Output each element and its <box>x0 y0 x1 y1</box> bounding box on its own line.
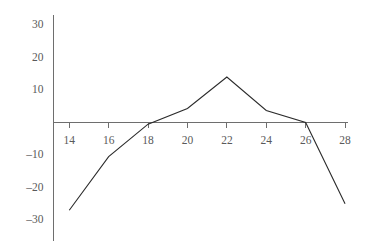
x-tick-label-14: 14 <box>64 135 76 147</box>
x-tick-label-26: 26 <box>300 135 312 147</box>
y-tick-label-10: 10 <box>32 84 44 96</box>
x-tick-marks <box>69 123 345 128</box>
y-tick-label-neg30: –30 <box>26 214 43 226</box>
x-tick-label-20: 20 <box>182 135 194 147</box>
x-tick-label-18: 18 <box>142 135 154 147</box>
y-tick-label-neg20: –20 <box>26 182 43 194</box>
y-tick-label-30: 30 <box>32 19 44 31</box>
line-chart: 1416182022242628 302010–10–20–30 <box>0 0 369 248</box>
y-tick-label-neg10: –10 <box>26 149 43 161</box>
y-tick-label-20: 20 <box>32 52 44 64</box>
x-tick-label-22: 22 <box>221 135 233 147</box>
x-tick-label-28: 28 <box>339 135 351 147</box>
plot-area <box>0 0 369 248</box>
x-tick-label-24: 24 <box>261 135 273 147</box>
x-tick-label-16: 16 <box>103 135 115 147</box>
